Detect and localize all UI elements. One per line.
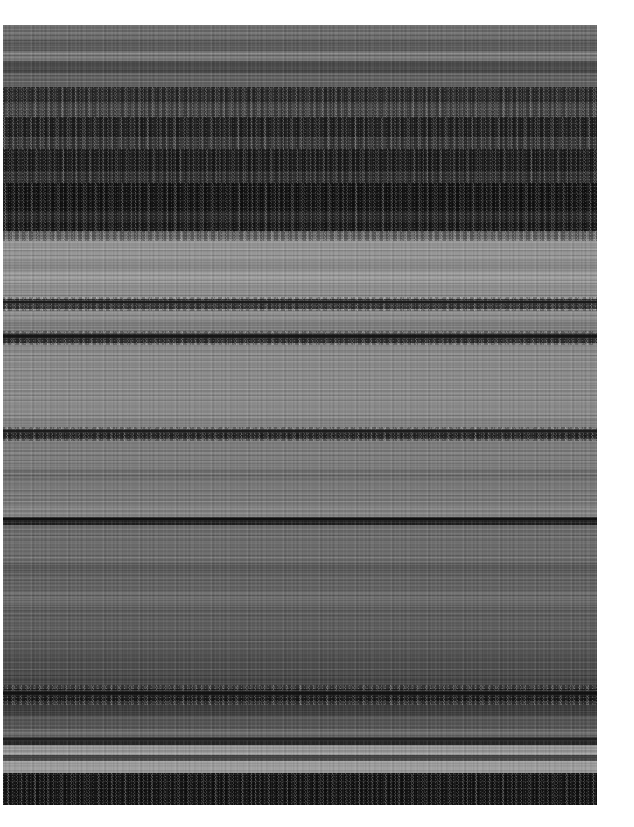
spectrogram-plate	[3, 25, 597, 805]
ridge-line	[3, 517, 597, 521]
ridge-line	[3, 300, 597, 305]
page-root	[0, 0, 634, 827]
ridge-line	[3, 333, 597, 339]
ridge-line	[3, 429, 597, 434]
ridge-line	[3, 690, 597, 697]
ridge-stack	[3, 25, 597, 805]
ridge-line	[3, 756, 597, 759]
ridge-line	[3, 737, 597, 741]
